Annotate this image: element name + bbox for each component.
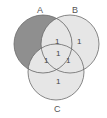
region-bc: 1: [66, 56, 71, 65]
region-b-only: 1: [77, 37, 82, 46]
label-c: C: [54, 104, 61, 114]
region-abc: 1: [56, 49, 61, 58]
venn-diagram: A B C 1 1 1 1 1 1: [0, 0, 107, 118]
label-b: B: [72, 5, 78, 15]
region-ac: 1: [44, 56, 49, 65]
region-ab: 1: [55, 37, 60, 46]
region-c-only: 1: [56, 77, 61, 86]
label-a: A: [37, 5, 43, 15]
